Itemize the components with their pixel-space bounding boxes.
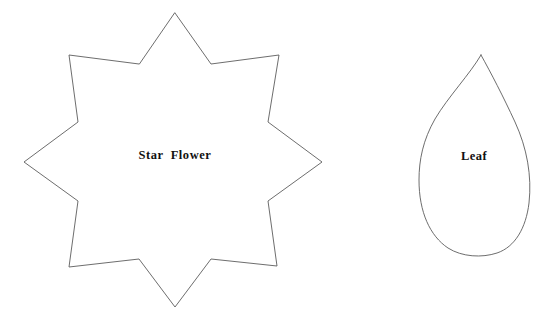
pattern-sheet: Star Flower Leaf [0, 0, 543, 311]
star-flower-label: Star Flower [139, 148, 212, 162]
leaf-label: Leaf [461, 149, 487, 163]
star-flower-shape-group[interactable]: Star Flower [24, 13, 322, 307]
pattern-canvas: Star Flower Leaf [0, 0, 543, 311]
leaf-shape-group[interactable]: Leaf [419, 55, 530, 256]
